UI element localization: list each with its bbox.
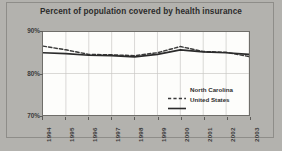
x-tick-label: 2001 <box>206 127 213 142</box>
x-tick-mark <box>204 117 205 120</box>
x-axis: 1994199519961997199819992000200120022003 <box>42 117 250 147</box>
x-tick-label: 1997 <box>114 127 121 142</box>
x-tick-mark <box>88 117 89 120</box>
y-axis: 70%80%90% <box>14 31 40 116</box>
y-tick-label: 80% <box>16 70 40 77</box>
x-tick-mark <box>65 117 66 120</box>
x-tick-label: 1999 <box>160 127 167 142</box>
legend-label-united-states: United States <box>190 96 230 103</box>
x-tick-label: 1995 <box>68 127 75 142</box>
y-tick-mark <box>40 74 43 75</box>
x-tick-mark <box>158 117 159 120</box>
x-tick-mark <box>227 117 228 120</box>
y-tick-label: 90% <box>16 27 40 34</box>
x-tick-label: 2000 <box>183 127 190 142</box>
legend-label-north-carolina: North Carolina <box>190 86 233 93</box>
x-tick-label: 2002 <box>229 127 236 142</box>
legend-swatch-solid <box>168 97 186 102</box>
x-tick-label: 1994 <box>45 127 52 142</box>
x-tick-mark <box>134 117 135 120</box>
x-tick-mark <box>111 117 112 120</box>
y-tick-label: 70% <box>16 112 40 119</box>
x-tick-label: 1998 <box>137 127 144 142</box>
y-tick-mark <box>40 31 43 32</box>
y-tick-mark <box>40 116 43 117</box>
chart-figure: Percent of population covered by health … <box>0 0 282 151</box>
x-tick-mark <box>42 117 43 120</box>
legend-item-north-carolina: North Carolina <box>168 85 244 94</box>
legend-swatch-dashed <box>168 87 186 92</box>
chart-legend: North Carolina United States <box>168 85 244 105</box>
legend-item-united-states: United States <box>168 95 244 104</box>
x-tick-mark <box>250 117 251 120</box>
x-tick-mark <box>181 117 182 120</box>
chart-title: Percent of population covered by health … <box>0 7 282 16</box>
x-tick-label: 2003 <box>253 127 260 142</box>
x-tick-label: 1996 <box>91 127 98 142</box>
